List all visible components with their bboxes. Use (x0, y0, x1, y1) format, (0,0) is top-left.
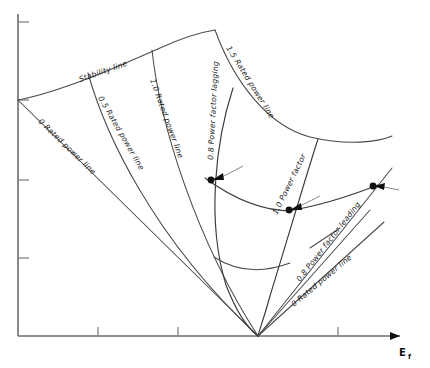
curve-rated-power-15 (215, 30, 392, 142)
labels-group: Stability line 0 Rated power line 0.5 Ra… (37, 44, 412, 361)
operating-point-pf-08-lagging[interactable] (208, 177, 215, 184)
curve-inner-right-radial (258, 210, 370, 336)
pointer-line-pf-08-lagging (222, 166, 243, 177)
pointer-line-pf-08-leading (384, 187, 399, 190)
x-axis-label-subscript: f (408, 353, 412, 361)
label-pf-10: 1.0 Power factor (271, 152, 308, 216)
label-rated-power-15: 1.5 Rated power line (224, 44, 276, 120)
curve-pf-10 (258, 139, 318, 336)
curve-rated-power-10 (152, 50, 258, 336)
operating-point-pf-10[interactable] (286, 207, 293, 214)
operating-point-pf-08-leading[interactable] (370, 183, 377, 190)
capability-chart-svg: Stability line 0 Rated power line 0.5 Ra… (0, 0, 430, 368)
label-stability-line: Stability line (78, 59, 129, 84)
curves-group (18, 30, 392, 336)
label-rated-power-0-left: 0 Rated power line (37, 117, 98, 176)
x-axis-arrow-icon (390, 332, 400, 340)
axes-group (18, 14, 400, 340)
x-axis-label: E (399, 347, 406, 358)
label-pf-08-lagging: 0.8 Power factor lagging (206, 61, 220, 160)
markers-group (208, 166, 399, 213)
label-rated-power-05: 0.5 Rated power line (96, 95, 146, 172)
capability-chart-figure: Stability line 0 Rated power line 0.5 Ra… (0, 0, 430, 368)
label-rated-power-10: 1.0 Rated power line (148, 78, 185, 160)
